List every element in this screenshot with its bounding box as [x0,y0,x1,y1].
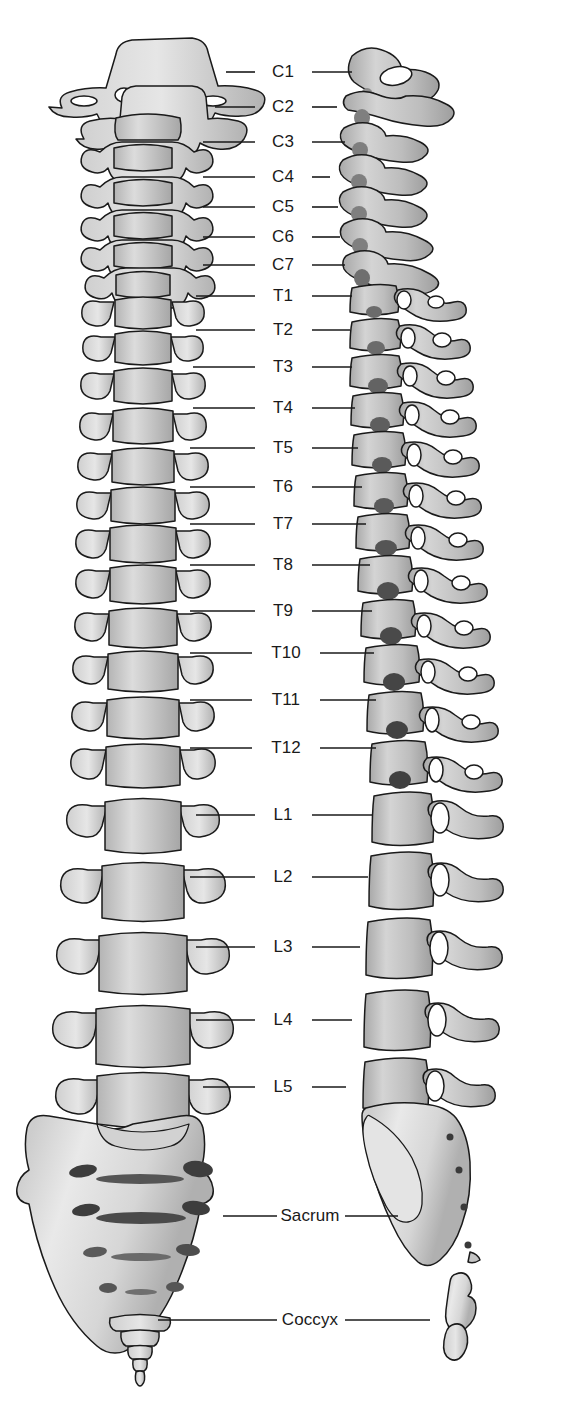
label-t12: T12 [271,738,301,758]
lateral-spine-view [339,48,503,1360]
thoracic-vertebrae-anterior [71,297,215,788]
label-t7: T7 [273,514,293,534]
label-coccyx: Coccyx [282,1310,338,1330]
vertebra-t9-anterior [75,608,211,648]
label-l3: L3 [273,937,292,957]
label-c6: C6 [272,227,294,247]
label-l2: L2 [273,867,292,887]
vertebra-t1-lateral [350,284,466,321]
vertebra-l5-lateral [363,1058,495,1112]
vertebra-t8-lateral [358,555,487,603]
spine-anatomy-figure: C1C2C3C4C5C6C7T1T2T3T4T5T6T7T8T9T10T11T1… [0,0,571,1409]
label-t2: T2 [273,320,293,340]
vertebra-t10-anterior [73,651,213,692]
vertebra-l4-anterior [53,1006,234,1068]
vertebra-t6-anterior [77,487,209,524]
vertebra-t8-anterior [76,565,210,604]
label-l1: L1 [273,805,292,825]
vertebra-t2-anterior [83,331,203,365]
vertebra-t2-lateral [350,318,470,359]
vertebra-t6-lateral [354,472,481,518]
vertebra-l3-lateral [366,918,502,979]
vertebra-l1-anterior [67,799,220,854]
vertebra-t4-lateral [351,392,476,437]
vertebra-t3-lateral [350,354,473,398]
label-t1: T1 [273,286,293,306]
vertebra-t11-lateral [367,691,498,742]
label-t10: T10 [271,643,301,663]
cervical-vertebrae-c3-c7 [81,142,215,308]
label-t11: T11 [272,690,300,710]
vertebra-l1-lateral [372,792,503,846]
vertebra-t5-anterior [78,448,208,485]
vertebra-t7-anterior [76,525,210,563]
label-c2: C2 [272,97,294,117]
vertebra-l5-anterior [56,1073,231,1128]
cervical-vertebrae-lateral [339,48,454,294]
label-l4: L4 [273,1010,292,1030]
vertebra-l4-lateral [364,990,499,1051]
label-c4: C4 [272,167,294,187]
vertebra-l2-lateral [369,852,503,910]
lumbar-vertebrae-lateral [363,792,503,1112]
vertebra-l2-anterior [61,863,226,922]
label-t3: T3 [273,357,293,377]
vertebra-t9-lateral [361,599,490,648]
label-l5: L5 [273,1077,292,1097]
vertebra-t5-lateral [352,431,479,477]
vertebra-t1-anterior [82,297,204,329]
vertebra-t7-lateral [356,513,483,560]
anterior-spine-view [17,38,265,1386]
vertebra-t3-anterior [81,368,205,404]
label-t5: T5 [273,438,293,458]
lumbar-vertebrae-anterior [53,799,234,1128]
vertebra-l3-anterior [57,933,230,995]
label-t4: T4 [273,398,293,418]
label-c7: C7 [272,255,294,275]
vertebra-t11-anterior [72,697,214,739]
label-t6: T6 [273,477,293,497]
coccyx-lateral [444,1273,476,1360]
vertebra-t12-lateral [370,740,502,792]
label-c5: C5 [272,197,294,217]
label-c1: C1 [272,62,294,82]
label-sacrum: Sacrum [280,1206,339,1226]
vertebra-t12-anterior [71,744,215,788]
thoracic-vertebrae-lateral [350,284,502,792]
label-t9: T9 [273,601,293,621]
vertebra-t10-lateral [364,644,494,694]
label-c3: C3 [272,132,294,152]
label-t8: T8 [273,555,293,575]
vertebra-t4-anterior [80,408,206,444]
sacrum-lateral [362,1103,480,1266]
